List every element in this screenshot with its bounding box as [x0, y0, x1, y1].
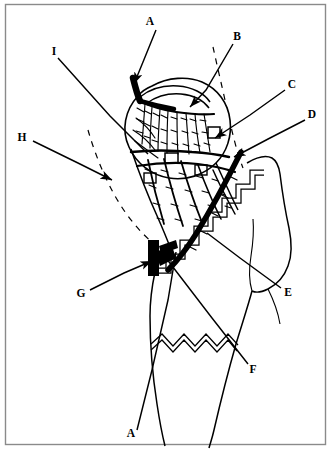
label-e: E [284, 286, 292, 298]
label-d: D [308, 108, 316, 120]
label-h: H [18, 131, 27, 143]
label-g: G [77, 287, 86, 299]
anatomical-figure: A B C D I H E F G A [0, 0, 331, 449]
label-b: B [233, 30, 241, 42]
label-a-top: A [146, 15, 155, 27]
label-i: I [52, 45, 57, 57]
label-a-bottom: A [127, 427, 136, 439]
figure-canvas: A B C D I H E F G A [0, 0, 331, 449]
label-f: F [249, 363, 256, 375]
label-c: C [288, 78, 296, 90]
